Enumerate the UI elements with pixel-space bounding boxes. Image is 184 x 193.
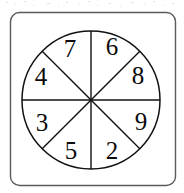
sector-label-4: 4 bbox=[35, 64, 48, 89]
sector-label-2: 2 bbox=[106, 138, 119, 163]
sector-dividers bbox=[22, 31, 160, 169]
sector-label-7: 7 bbox=[64, 36, 77, 61]
spinner-figure: 68925347 bbox=[0, 0, 184, 193]
spinner-wheel[interactable] bbox=[0, 0, 184, 193]
sector-label-9: 9 bbox=[135, 109, 148, 134]
sector-label-5: 5 bbox=[65, 138, 78, 163]
sector-label-3: 3 bbox=[36, 110, 49, 135]
sector-label-8: 8 bbox=[132, 63, 145, 88]
sector-label-6: 6 bbox=[106, 34, 119, 59]
